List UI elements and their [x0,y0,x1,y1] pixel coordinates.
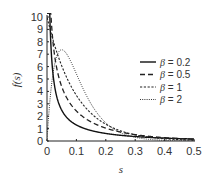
y-tick-label: 2 [37,110,43,122]
legend-label: β = 0.5 [159,69,191,80]
y-tick-label: 7 [37,48,43,60]
x-ticks: 00.10.20.30.40.5 [44,139,202,157]
gamma-pdf-chart: 012345678910 00.10.20.30.40.5 s f(s) β =… [0,0,210,180]
x-tick-label: 0.2 [98,145,113,157]
x-tick-label: 0.4 [157,145,172,157]
y-axis-label: f(s) [10,72,23,87]
y-tick-label: 10 [31,11,43,23]
legend-value: = 1 [165,82,182,93]
legend-label: β = 0.2 [159,57,191,68]
legend-label: β = 2 [159,94,182,105]
y-tick-label: 5 [37,73,43,85]
x-tick-label: 0.1 [69,145,84,157]
x-tick-label: 0.5 [186,145,201,157]
legend-value: = 2 [165,94,182,105]
y-tick-label: 4 [37,85,43,97]
legend-value: = 0.5 [165,69,191,80]
legend-value: = 0.2 [165,57,191,68]
y-tick-label: 6 [37,61,43,73]
y-tick-label: 8 [37,36,43,48]
y-tick-label: 1 [37,123,43,135]
legend: β = 0.2β = 0.5β = 1β = 2 [140,57,191,106]
y-tick-label: 3 [37,98,43,110]
y-ticks: 012345678910 [31,11,49,147]
y-tick-label: 0 [37,135,43,147]
x-tick-label: 0.3 [128,145,143,157]
y-tick-label: 9 [37,23,43,35]
legend-label: β = 1 [159,82,182,93]
x-tick-label: 0 [44,145,50,157]
x-axis-label: s [119,163,123,175]
